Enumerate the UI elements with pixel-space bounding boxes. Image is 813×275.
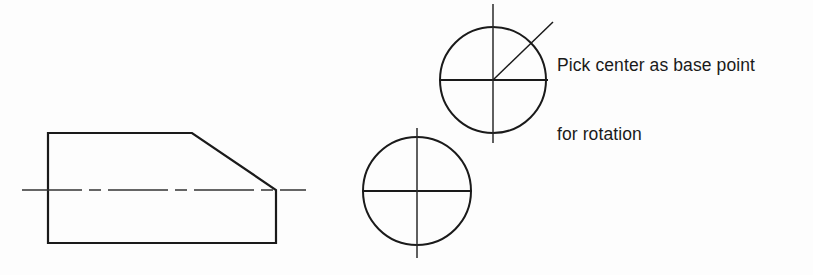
annotation-leader-line — [493, 22, 553, 80]
drawing-canvas: Pick center as base point for rotation — [0, 0, 813, 275]
annotation-callout-text: Pick center as base point for rotation — [557, 8, 755, 192]
annotation-line-1: Pick center as base point — [557, 54, 755, 77]
annotation-line-2: for rotation — [557, 123, 755, 146]
chamfered-block-outline — [48, 133, 276, 243]
